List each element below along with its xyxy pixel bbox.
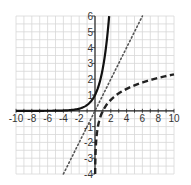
y-tick-label: 2	[87, 74, 93, 85]
x-tick-label: -2	[75, 113, 84, 124]
y-tick-label: -3	[84, 153, 93, 164]
x-tick-label: 6	[140, 113, 146, 124]
x-tick-label: 10	[168, 113, 180, 124]
x-tick-label: 4	[124, 113, 130, 124]
y-tick-label: 4	[87, 43, 93, 54]
x-tick-label: -8	[27, 113, 36, 124]
y-tick-label: 3	[87, 58, 93, 69]
y-tick-label: 5	[87, 27, 93, 38]
x-tick-label: -4	[59, 113, 68, 124]
y-tick-label: 1	[87, 90, 93, 101]
y-tick-label: 6	[87, 11, 93, 22]
x-tick-label: 2	[108, 113, 114, 124]
x-tick-label: -10	[9, 113, 24, 124]
function-graph: -10-8-6-4-2246810-4-3-2-1123456	[0, 0, 191, 185]
x-tick-label: 8	[155, 113, 161, 124]
y-tick-label: -4	[84, 169, 93, 180]
y-tick-label: -1	[84, 122, 93, 133]
x-tick-label: -6	[43, 113, 52, 124]
y-tick-label: -2	[84, 137, 93, 148]
